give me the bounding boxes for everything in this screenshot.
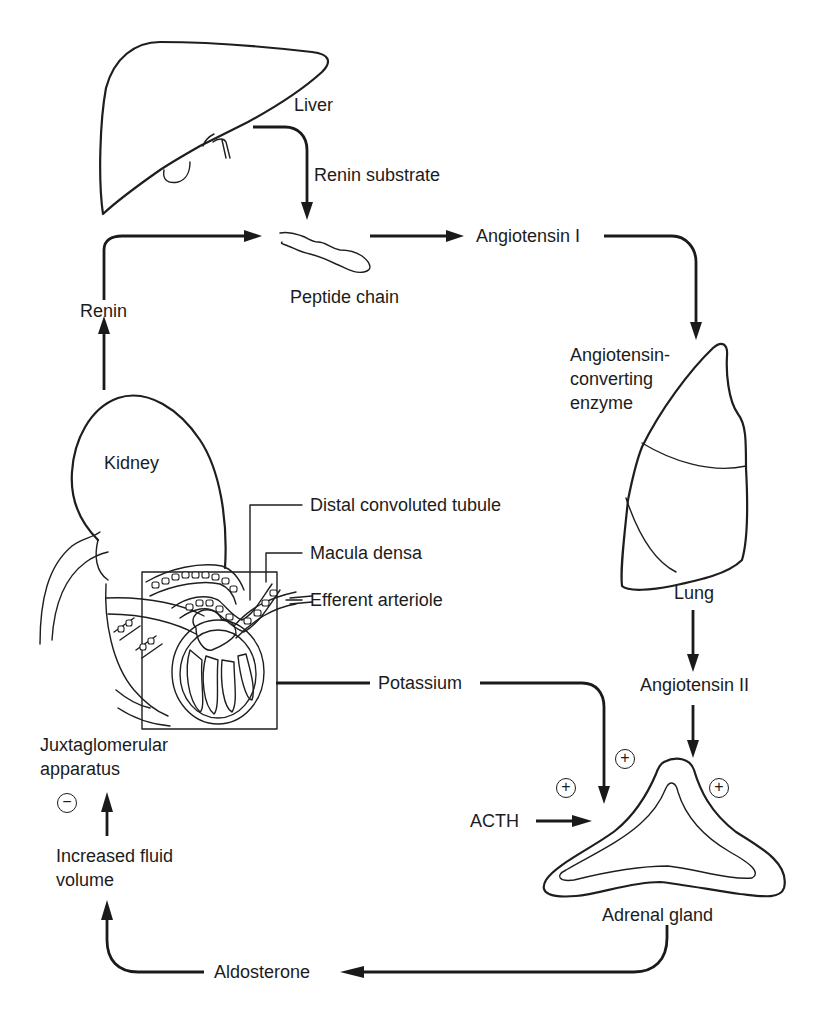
peptide-chain-illustration: [280, 232, 370, 272]
potassium-label: Potassium: [378, 672, 462, 694]
plus-sign-icon-angiotensin-ii: +: [709, 778, 729, 798]
liver-label: Liver: [294, 94, 333, 116]
plus-sign-icon-acth: +: [556, 778, 576, 798]
adrenal-gland-label: Adrenal gland: [602, 904, 713, 926]
minus-sign-icon-fluid-volume: −: [57, 793, 77, 813]
fluid-volume-label-line2: volume: [56, 869, 114, 891]
aldosterone-label: Aldosterone: [214, 961, 310, 983]
angiotensin-i-label: Angiotensin I: [476, 225, 580, 247]
aldosterone-to-fluid-arrow: [107, 916, 204, 972]
renin-label: Renin: [80, 300, 127, 322]
lung-label: Lung: [674, 582, 714, 604]
efferent-arteriole-callout-label: Efferent arteriole: [310, 589, 443, 611]
fluid-volume-label-line1: Increased fluid: [56, 845, 173, 867]
angiotensin-ii-label: Angiotensin II: [640, 674, 749, 696]
renin-substrate-label: Renin substrate: [314, 164, 440, 186]
ace-label-line2: converting: [570, 368, 653, 390]
plus-sign-icon-potassium: +: [615, 749, 635, 769]
adrenal-gland-illustration: [544, 759, 785, 897]
potassium-to-adrenal-arrow: [480, 683, 604, 790]
macula-densa-leader-line: [266, 553, 302, 582]
acth-label: ACTH: [470, 810, 519, 832]
jga-label-line1: Juxtaglomerular: [40, 734, 168, 756]
dct-callout-label: Distal convoluted tubule: [310, 494, 501, 516]
angiotensin-i-to-lung-arrow: [604, 236, 696, 326]
ace-label-line3: enzyme: [570, 392, 633, 414]
ace-label-line1: Angiotensin-: [570, 344, 670, 366]
adrenal-to-aldosterone-arrow: [360, 925, 667, 972]
renin-substrate-arrow: [253, 127, 307, 205]
jga-label-line2: apparatus: [40, 758, 120, 780]
raas-diagram: Liver Renin substrate Peptide chain Reni…: [0, 0, 823, 1022]
renin-to-peptide-arrow: [104, 236, 248, 300]
distal-tubule-illustration: [114, 565, 280, 658]
peptide-chain-label: Peptide chain: [290, 286, 399, 308]
macula-densa-callout-label: Macula densa: [310, 542, 422, 564]
kidney-label: Kidney: [104, 452, 159, 474]
kidney-illustration: [40, 396, 312, 729]
